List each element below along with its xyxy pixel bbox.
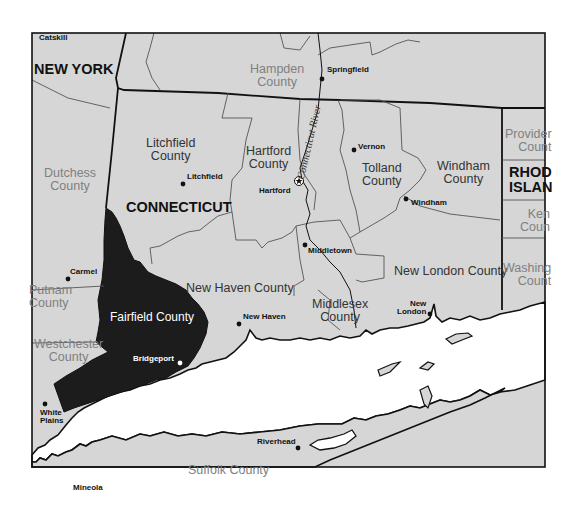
county-label-kent: Ken Coun <box>520 208 550 234</box>
county-word: County <box>362 175 402 188</box>
county-label-hartford: Hartford County <box>246 145 291 171</box>
city-label-windham: Windham <box>411 199 447 207</box>
county-label-dutchess: Dutchess County <box>44 167 96 193</box>
county-label-new-haven: New Haven County <box>186 282 294 295</box>
city-label-middletown: Middletown <box>308 247 352 255</box>
city-label-catskill: Catskill <box>39 34 67 42</box>
city-label-bridgeport: Bridgeport <box>133 355 174 363</box>
city-label-vernon: Vernon <box>358 143 385 151</box>
county-word: County <box>437 173 490 186</box>
county-word: County <box>44 180 96 193</box>
city-label-litchfield: Litchfield <box>187 173 223 181</box>
county-word: County <box>246 158 291 171</box>
bridgeport-dot <box>178 361 183 366</box>
city-name-line: London <box>397 308 426 316</box>
county-label-putnam: Putnam County <box>29 284 72 310</box>
county-label-washington: Washing Count <box>503 262 551 288</box>
county-label-windham: Windham County <box>437 160 490 186</box>
county-label-tolland: Tolland County <box>362 162 402 188</box>
city-label-springfield: Springfield <box>327 66 369 74</box>
county-label-suffolk: Suffolk County <box>188 464 269 477</box>
state-label-rhode-island: RHOD ISLAN <box>509 165 553 195</box>
county-word: County <box>312 311 368 324</box>
city-name-line: Plains <box>40 417 64 425</box>
county-word: County <box>250 76 304 89</box>
county-word: County <box>34 351 103 364</box>
county-word: County <box>29 297 72 310</box>
county-label-providence: Provider Count <box>505 128 552 154</box>
county-word: Count <box>505 141 552 154</box>
county-label-middlesex: Middlesex County <box>312 298 368 324</box>
county-word: Coun <box>520 221 550 234</box>
county-word: County <box>146 150 195 163</box>
state-label-line: ISLAN <box>509 180 553 195</box>
state-label-connecticut: CONNECTICUT <box>126 200 232 215</box>
county-label-new-london: New London County <box>394 265 507 278</box>
city-label-new-london: New London <box>397 300 426 317</box>
county-label-westchester: Westchester County <box>34 338 103 364</box>
county-label-fairfield: Fairfield County <box>110 311 194 324</box>
county-label-hampden: Hampden County <box>250 63 304 89</box>
city-label-mineola: Mineola <box>73 484 103 492</box>
city-label-carmel: Carmel <box>70 268 97 276</box>
city-label-new-haven: New Haven <box>243 313 286 321</box>
state-label-new-york: NEW YORK <box>34 62 114 77</box>
city-label-riverhead: Riverhead <box>257 438 296 446</box>
city-label-white-plains: White Plains <box>40 409 64 426</box>
county-label-litchfield: Litchfield County <box>146 137 195 163</box>
county-word: Count <box>503 275 551 288</box>
city-label-hartford: Hartford <box>259 187 291 195</box>
state-label-line: RHOD <box>509 165 553 180</box>
